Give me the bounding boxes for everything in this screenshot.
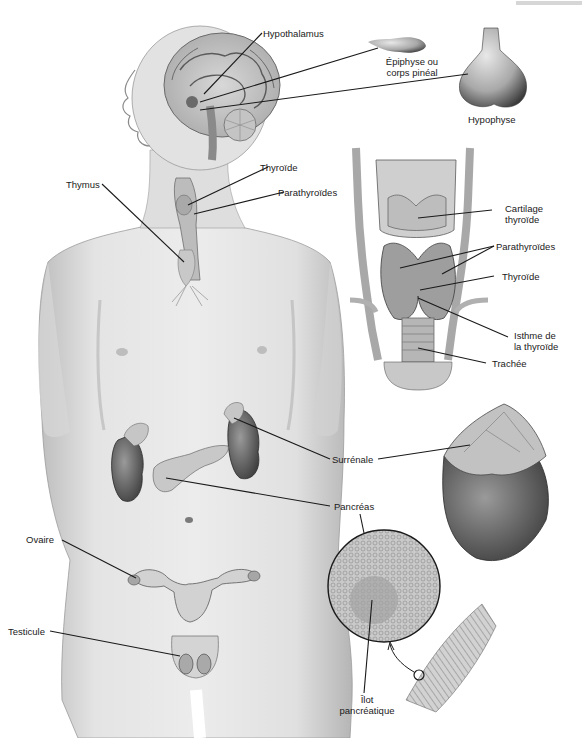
label-thyroide-body: Thyroïde: [260, 162, 298, 173]
label-cartilage-line1: Cartilage: [505, 203, 543, 214]
label-isthme-line1: Isthme de: [514, 330, 558, 341]
label-hypothalamus: Hypothalamus: [263, 28, 324, 39]
label-pancreas: Pancréas: [334, 501, 374, 512]
label-ilot-pancreatique: Îlot pancréatique: [334, 694, 400, 716]
label-ilot-line1: Îlot: [334, 694, 400, 705]
label-epiphyse-line2: corps pinéal: [380, 67, 444, 78]
label-thymus: Thymus: [66, 179, 100, 190]
thyroid-detail: [350, 148, 488, 390]
pancreatic-islet-detail: [328, 530, 496, 712]
label-cartilage-line2: thyroïde: [505, 214, 543, 225]
label-hypophyse: Hypophyse: [468, 114, 516, 125]
label-surrenale: Surrénale: [332, 454, 373, 465]
label-cartilage-thyroide: Cartilage thyroïde: [505, 203, 543, 225]
pituitary-gland-detail: [459, 28, 526, 107]
label-isthme-line2: la thyroïde: [514, 341, 558, 352]
label-isthme-thyroide: Isthme de la thyroïde: [514, 330, 558, 352]
label-parathyroides-body: Parathyroïdes: [278, 187, 337, 198]
label-ilot-line2: pancréatique: [334, 705, 400, 716]
label-epiphyse: Épiphyse ou corps pinéal: [380, 56, 444, 78]
label-testicule: Testicule: [8, 626, 45, 637]
label-epiphyse-line1: Épiphyse ou: [380, 56, 444, 67]
human-body: [38, 26, 352, 738]
label-thyroide-detail: Thyroïde: [502, 271, 540, 282]
label-ovaire: Ovaire: [26, 534, 54, 545]
label-trachee: Trachée: [492, 358, 527, 369]
pineal-gland-detail: [368, 37, 426, 52]
anatomy-drawing: [0, 0, 586, 738]
endocrine-system-illustration: Hypothalamus Épiphyse ou corps pinéal Hy…: [0, 0, 586, 738]
label-parathyroides-detail: Parathyroïdes: [496, 241, 555, 252]
adrenal-kidney-detail: [443, 404, 549, 561]
